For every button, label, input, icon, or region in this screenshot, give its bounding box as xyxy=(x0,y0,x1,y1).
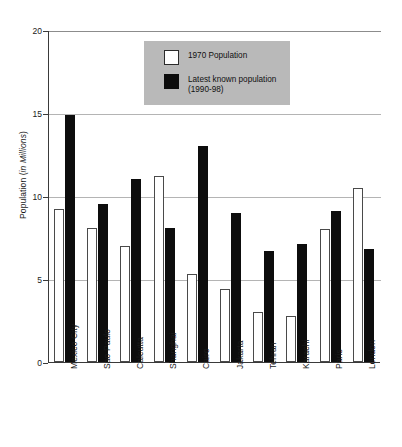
bar-1970 xyxy=(54,209,64,362)
x-tick-label: Sao Paulo xyxy=(102,329,112,369)
population-bar-chart: Population (in Millions) 05101520 Mexico… xyxy=(0,0,402,447)
x-tick-label: Paris xyxy=(334,349,344,369)
y-title-italic: in Millions xyxy=(18,134,28,172)
y-tick-label-10: 10 xyxy=(22,192,42,202)
y-tick-label-20: 20 xyxy=(22,26,42,36)
bar-1970 xyxy=(154,176,164,362)
bar-1970 xyxy=(220,289,230,362)
bar-latest xyxy=(331,211,341,362)
bar-1970 xyxy=(87,228,97,362)
bar-1970 xyxy=(187,274,197,362)
bar-1970 xyxy=(286,316,296,362)
bar-1970 xyxy=(120,246,130,362)
x-tick-label: Cairo xyxy=(201,348,211,369)
y-tick-label-15: 15 xyxy=(22,109,42,119)
legend-swatch-1 xyxy=(164,50,179,65)
bar-1970 xyxy=(253,312,263,362)
x-tick-label: Calcutta xyxy=(135,337,145,369)
x-tick-label: Tehran xyxy=(268,342,278,369)
bar-latest xyxy=(131,179,141,362)
x-tick-label: Jakarta xyxy=(235,340,245,369)
chart-legend: 1970 PopulationLatest known population (… xyxy=(144,41,290,105)
bar-group xyxy=(348,30,381,362)
legend-label-1: 1970 Population xyxy=(188,51,247,61)
bar-group xyxy=(315,30,348,362)
bar-group xyxy=(49,30,82,362)
x-tick-label: Shanghai xyxy=(168,332,178,369)
legend-swatch-2 xyxy=(164,74,179,89)
legend-label-2: Latest known population (1990-98) xyxy=(188,75,276,95)
x-tick-label: Karachi xyxy=(301,339,311,369)
bar-1970 xyxy=(353,188,363,362)
bar-latest xyxy=(198,146,208,362)
x-tick-label: Mexico City xyxy=(69,324,79,369)
y-tick-mark-0 xyxy=(43,363,48,364)
y-tick-label-0: 0 xyxy=(22,358,42,368)
x-tick-label: London xyxy=(367,340,377,369)
bar-1970 xyxy=(320,229,330,362)
bar-group xyxy=(82,30,115,362)
y-tick-label-5: 5 xyxy=(22,275,42,285)
y-title-suffix: ) xyxy=(18,131,28,134)
